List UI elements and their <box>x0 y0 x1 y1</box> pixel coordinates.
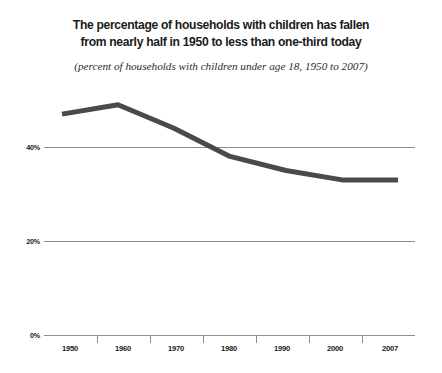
ytick-label-40: 40% <box>26 143 40 152</box>
xtick-mark-5 <box>309 336 310 343</box>
xtick-label-1960: 1960 <box>115 344 131 353</box>
xtick-mark-4 <box>256 336 257 343</box>
gridline-0 <box>44 335 415 336</box>
xtick-label-1980: 1980 <box>221 344 237 353</box>
ytick-label-0: 0% <box>30 331 40 340</box>
xtick-mark-2 <box>150 336 151 343</box>
series-layer <box>0 0 442 373</box>
xtick-label-2007: 2007 <box>382 344 398 353</box>
data-series-line <box>62 105 398 180</box>
xtick-label-1950: 1950 <box>62 344 78 353</box>
gridline-20 <box>44 241 415 242</box>
xtick-label-1990: 1990 <box>274 344 290 353</box>
xtick-label-1970: 1970 <box>168 344 184 353</box>
xtick-mark-1 <box>97 336 98 343</box>
chart-page: The percentage of households with childr… <box>0 0 442 373</box>
gridline-40 <box>44 147 415 148</box>
xtick-mark-3 <box>203 336 204 343</box>
xtick-mark-6 <box>362 336 363 343</box>
ytick-label-20: 20% <box>26 237 40 246</box>
xtick-label-2000: 2000 <box>327 344 343 353</box>
plot-area: 40% 20% 0% 1950 1960 1970 1980 1990 2000… <box>0 0 442 373</box>
